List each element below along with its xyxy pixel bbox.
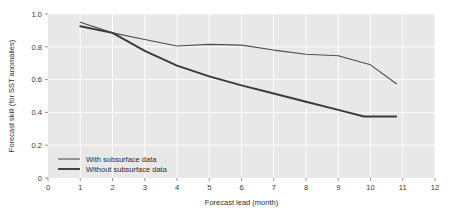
y-tick-label: 0 (38, 174, 42, 183)
y-axis: 00.20.40.60.81.0 (32, 10, 48, 183)
line-chart: 00.20.40.60.81.0 0123456789101112 Foreca… (0, 0, 460, 212)
x-tick-label: 1 (78, 183, 82, 192)
x-tick-label: 8 (304, 183, 308, 192)
x-tick-label: 2 (110, 183, 114, 192)
y-tick-label: 0.4 (32, 108, 42, 117)
y-tick-label: 0.2 (32, 141, 42, 150)
x-tick-label: 9 (336, 183, 340, 192)
x-axis-title: Forecast lead (month) (205, 198, 279, 207)
x-tick-label: 11 (399, 183, 407, 192)
x-tick-label: 6 (239, 183, 243, 192)
x-tick-label: 4 (175, 183, 179, 192)
x-axis: 0123456789101112 (46, 178, 439, 192)
y-axis-title: Forecast skill (for SST anomalies) (7, 39, 16, 152)
x-tick-label: 10 (366, 183, 374, 192)
x-tick-label: 5 (207, 183, 211, 192)
legend-label-1: Without subsurface data (86, 165, 168, 174)
legend-label-0: With subsurface data (86, 155, 157, 164)
x-tick-label: 3 (143, 183, 147, 192)
y-tick-label: 1.0 (32, 10, 42, 19)
x-tick-label: 0 (46, 183, 50, 192)
x-tick-label: 12 (431, 183, 439, 192)
y-tick-label: 0.6 (32, 75, 42, 84)
y-tick-label: 0.8 (32, 43, 42, 52)
x-tick-label: 7 (272, 183, 276, 192)
chart-figure: 00.20.40.60.81.0 0123456789101112 Foreca… (0, 0, 460, 212)
